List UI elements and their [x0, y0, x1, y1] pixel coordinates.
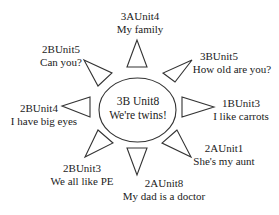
ray-label-lower-left: 2BUnit3 We all like PE: [42, 162, 122, 188]
title-label: My family: [100, 23, 180, 36]
ray-triangle-bottom: [127, 148, 147, 175]
unit-label: 2BUnit4: [4, 102, 84, 115]
title-label: Can you?: [30, 56, 92, 69]
ray-label-right: 1BUnit3 I like carrots: [206, 97, 276, 123]
title-label: We all like PE: [42, 175, 122, 188]
ray-label-upper-left: 2BUnit5 Can you?: [30, 43, 92, 69]
unit-label: 3AUnit4: [100, 10, 180, 23]
ray-label-upper-right: 3BUnit5 How old are you?: [188, 50, 276, 76]
center-label: 3B Unit8 We're twins!: [99, 94, 177, 122]
title-label: How old are you?: [188, 63, 276, 76]
ray-label-left: 2BUnit4 I have big eyes: [4, 102, 84, 128]
unit-label: 2AUnit1: [186, 142, 262, 155]
ray-label-lower-right: 2AUnit1 She's my aunt: [186, 142, 262, 168]
ray-triangle-top: [127, 40, 147, 67]
center-title: We're twins!: [99, 108, 177, 122]
ray-label-top: 3AUnit4 My family: [100, 10, 180, 36]
unit-label: 2BUnit5: [30, 43, 92, 56]
title-label: I like carrots: [206, 110, 276, 123]
title-label: My dad is a doctor: [118, 190, 210, 203]
center-unit: 3B Unit8: [99, 94, 177, 108]
ray-label-bottom: 2AUnit8 My dad is a doctor: [118, 177, 210, 203]
title-label: I have big eyes: [4, 115, 84, 128]
ray-triangle-lower-left: [85, 130, 113, 157]
unit-label: 2AUnit8: [118, 177, 210, 190]
title-label: She's my aunt: [186, 155, 262, 168]
unit-label: 2BUnit3: [42, 162, 122, 175]
unit-label: 1BUnit3: [206, 97, 276, 110]
unit-label: 3BUnit5: [188, 50, 276, 63]
